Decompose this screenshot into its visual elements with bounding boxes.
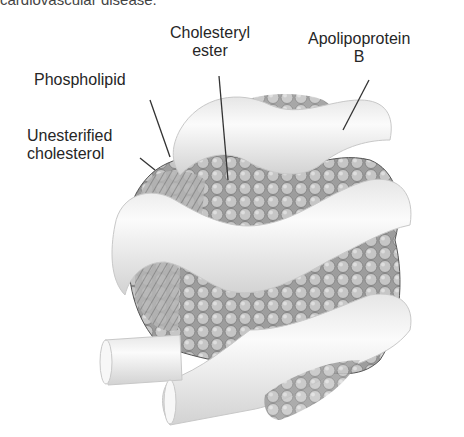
- leader-unesterified-cholesterol: [140, 158, 155, 170]
- label-line: Phospholipid: [34, 71, 126, 89]
- label-line: ester: [170, 42, 250, 60]
- label-line: B: [308, 48, 410, 66]
- label-unesterified-cholesterol: Unesterified cholesterol: [27, 127, 112, 163]
- label-line: Cholesteryl: [170, 24, 250, 42]
- label-apolipoprotein-b: Apolipoprotein B: [308, 30, 410, 66]
- leader-phospholipid: [150, 100, 170, 157]
- label-line: Unesterified: [27, 127, 112, 145]
- label-phospholipid: Phospholipid: [34, 71, 126, 89]
- label-cholesteryl-ester: Cholesteryl ester: [170, 24, 250, 60]
- label-line: Apolipoprotein: [308, 30, 410, 48]
- label-line: cholesterol: [27, 145, 112, 163]
